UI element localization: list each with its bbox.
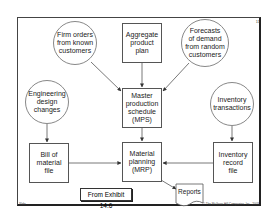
engineering-changes-circle: Engineering design changes — [25, 80, 69, 124]
forecasts-circle: Forecasts of demand from random customer… — [181, 19, 229, 67]
reports-label: Reports — [176, 186, 203, 198]
inventory-record-file-box: Inventory record file — [213, 142, 253, 183]
page-number: 11 — [256, 19, 260, 24]
master-production-schedule-box: Master production schedule (MPS) — [122, 88, 162, 128]
firm-orders-circle: Firm orders from known customers — [53, 21, 97, 65]
bill-of-material-box: Bill of material file — [29, 143, 69, 183]
footer-left-text: Slide — [19, 202, 26, 206]
inventory-transactions-circle: Inventory transactions — [210, 82, 254, 126]
footer-copyright: © The McGraw-Hill Companies, Inc., 2003 — [203, 202, 259, 206]
aggregate-product-plan-box: Aggregate product plan — [122, 23, 162, 63]
material-planning-mrp-box: Material planning (MRP) — [122, 142, 162, 182]
exhibit-reference-label: From Exhibit 14.6 — [80, 188, 132, 201]
